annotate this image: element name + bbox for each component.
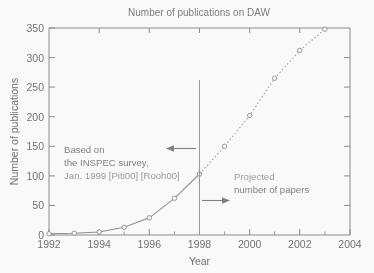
x-axis-title: Year xyxy=(189,255,211,267)
y-tick-label: 150 xyxy=(26,140,44,152)
series-actual xyxy=(47,172,202,236)
x-tick-label: 1998 xyxy=(188,238,212,250)
survey-note-line-1: Based on xyxy=(64,144,105,155)
chart-title: Number of publications on DAW xyxy=(128,7,270,18)
publications-line-chart: 0 50 100 150 200 250 300 350 xyxy=(0,0,374,273)
data-point xyxy=(298,48,302,52)
series-projected xyxy=(200,27,328,174)
y-axis-tick-labels: 0 50 100 150 200 250 300 350 xyxy=(26,22,44,241)
data-point xyxy=(72,231,76,235)
arrow-right-icon xyxy=(222,197,230,203)
survey-note-annotation: Based on the INSPEC survey, Jan. 1999 [P… xyxy=(64,144,196,181)
y-tick-label: 300 xyxy=(26,52,44,64)
data-point xyxy=(273,76,277,80)
data-point xyxy=(323,27,327,31)
x-tick-label: 1994 xyxy=(88,238,112,250)
survey-note-line-2: the INSPEC survey, xyxy=(64,157,149,168)
data-point xyxy=(47,232,51,236)
survey-note-line-3: Jan. 1999 [Piti00] [Rooh00] xyxy=(64,170,180,181)
data-point xyxy=(222,144,226,148)
arrow-left-icon xyxy=(166,145,174,151)
data-point xyxy=(97,230,101,234)
projection-note-annotation: Projected number of papers xyxy=(202,171,309,204)
y-tick-label: 350 xyxy=(26,22,44,34)
y-tick-label: 200 xyxy=(26,111,44,123)
data-point xyxy=(172,196,176,200)
y-tick-label: 100 xyxy=(26,170,44,182)
y-tick-label: 250 xyxy=(26,81,44,93)
projection-note-line-2: number of papers xyxy=(234,184,309,195)
x-tick-label: 1996 xyxy=(138,238,162,250)
x-tick-label: 2004 xyxy=(338,238,362,250)
x-tick-label: 1992 xyxy=(37,238,61,250)
data-point xyxy=(248,113,252,117)
y-tick-label: 50 xyxy=(32,199,44,211)
figure-canvas: 0 50 100 150 200 250 300 350 xyxy=(0,0,374,273)
projection-note-line-1: Projected xyxy=(234,171,275,182)
x-axis-tick-labels: 1992 1994 1996 1998 2000 2002 2004 xyxy=(37,238,362,250)
data-point xyxy=(147,216,151,220)
x-tick-label: 2000 xyxy=(238,238,262,250)
y-axis-title: Number of publications xyxy=(8,78,20,185)
data-point xyxy=(122,225,126,229)
x-tick-label: 2002 xyxy=(288,238,312,250)
